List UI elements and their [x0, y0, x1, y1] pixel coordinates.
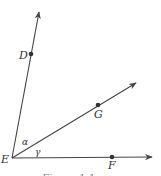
angle-diagram: D G E F α γ Figure 1.1: [0, 0, 161, 176]
ray-EF: [12, 157, 152, 158]
figure-caption: Figure 1.1: [41, 172, 95, 176]
ray-EG: [12, 83, 136, 158]
label-alpha: α: [22, 137, 28, 147]
label-E: E: [0, 153, 9, 166]
label-F: F: [107, 159, 116, 172]
point-G: [96, 103, 101, 108]
label-D: D: [18, 49, 28, 62]
label-gamma: γ: [35, 147, 41, 157]
label-G: G: [94, 108, 103, 121]
point-D: [29, 52, 34, 57]
